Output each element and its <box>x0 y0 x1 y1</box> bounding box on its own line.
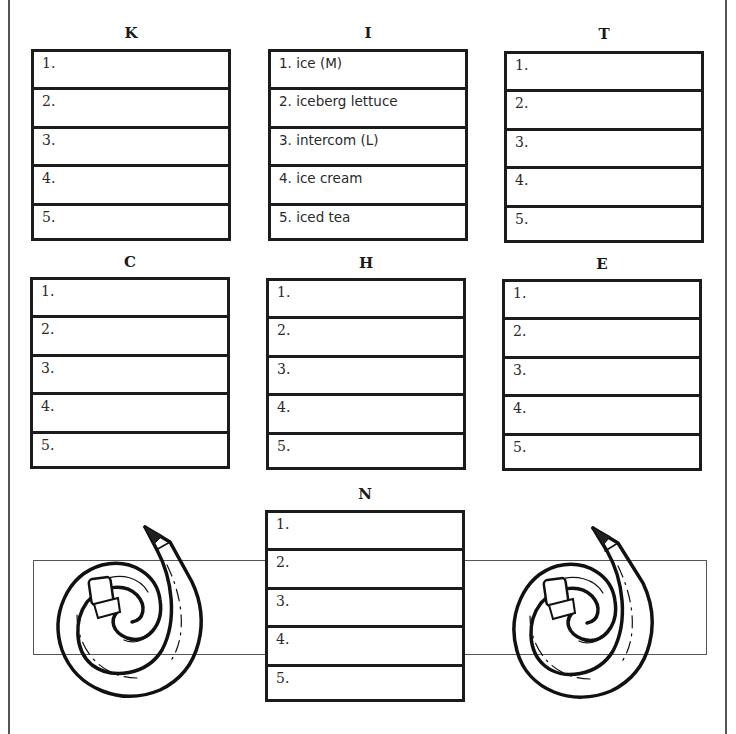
item-label: 5. <box>41 437 54 453</box>
answer-line[interactable]: 4. <box>268 628 462 666</box>
item-label: 5. <box>276 670 289 686</box>
answer-line[interactable]: 5. <box>507 208 701 246</box>
item-label: 3. <box>42 132 55 148</box>
item-label: 3. <box>277 361 290 377</box>
word-box-h: 1. 2. 3. 4. 5. <box>266 278 466 470</box>
word-box-i: 1. ice (M) 2. iceberg lettuce 3. interco… <box>268 49 468 241</box>
item-label: 3. <box>41 360 54 376</box>
box-title-k: K <box>31 24 231 42</box>
answer-line[interactable]: 5. <box>269 435 463 473</box>
answer-line[interactable]: 5. iced tea <box>271 206 465 244</box>
answer-line[interactable]: 4. <box>269 396 463 434</box>
item-label: 1. <box>513 285 526 301</box>
box-title-t: T <box>504 25 704 43</box>
answer-line[interactable]: 2. <box>34 90 228 128</box>
item-label: 2. <box>42 93 55 109</box>
answer-line[interactable]: 5. <box>33 434 227 472</box>
answer-line[interactable]: 2. <box>33 318 227 356</box>
word-box-e: 1. 2. 3. 4. 5. <box>502 279 702 471</box>
item-label: 4. <box>42 170 55 186</box>
word-box-k: 1. 2. 3. 4. 5. <box>31 49 231 241</box>
item-label: 4. ice cream <box>279 170 362 186</box>
item-label: 5. iced tea <box>279 209 350 225</box>
item-label: 5. <box>513 439 526 455</box>
answer-line[interactable]: 2. <box>268 551 462 589</box>
box-title-n: N <box>265 485 465 503</box>
item-label: 1. <box>277 284 290 300</box>
answer-line[interactable]: 3. <box>505 359 699 397</box>
answer-line[interactable]: 4. ice cream <box>271 167 465 205</box>
answer-line[interactable]: 1. <box>34 52 228 90</box>
item-label: 1. <box>276 516 289 532</box>
item-label: 3. <box>513 362 526 378</box>
answer-line[interactable]: 1. <box>33 280 227 318</box>
item-label: 4. <box>515 172 528 188</box>
answer-line[interactable]: 3. <box>33 357 227 395</box>
item-label: 2. iceberg lettuce <box>279 93 398 109</box>
answer-line[interactable]: 4. <box>505 397 699 435</box>
answer-line[interactable]: 5. <box>34 206 228 244</box>
item-label: 1. ice (M) <box>279 55 342 71</box>
answer-line[interactable]: 1. <box>505 282 699 320</box>
item-label: 3. <box>515 134 528 150</box>
item-label: 4. <box>41 398 54 414</box>
word-box-n: 1. 2. 3. 4. 5. <box>265 510 465 702</box>
answer-line[interactable]: 4. <box>507 169 701 207</box>
answer-line[interactable]: 3. <box>34 129 228 167</box>
item-label: 2. <box>513 323 526 339</box>
item-label: 5. <box>277 438 290 454</box>
answer-line[interactable]: 3. intercom (L) <box>271 129 465 167</box>
item-label: 2. <box>515 95 528 111</box>
answer-line[interactable]: 1. <box>269 281 463 319</box>
page-border-right <box>725 0 727 734</box>
item-label: 3. intercom (L) <box>279 132 379 148</box>
answer-line[interactable]: 4. <box>33 395 227 433</box>
item-label: 2. <box>41 321 54 337</box>
box-title-h: H <box>266 254 466 272</box>
box-title-i: I <box>268 24 468 42</box>
item-label: 4. <box>513 400 526 416</box>
box-title-e: E <box>502 255 702 273</box>
curled-pencil-icon <box>515 521 685 711</box>
item-label: 4. <box>277 399 290 415</box>
answer-line[interactable]: 3. <box>268 590 462 628</box>
answer-line[interactable]: 1. <box>507 54 701 92</box>
answer-line[interactable]: 1. ice (M) <box>271 52 465 90</box>
answer-line[interactable]: 1. <box>268 513 462 551</box>
word-box-c: 1. 2. 3. 4. 5. <box>30 277 230 469</box>
answer-line[interactable]: 4. <box>34 167 228 205</box>
answer-line[interactable]: 2. <box>505 320 699 358</box>
answer-line[interactable]: 3. <box>507 131 701 169</box>
item-label: 5. <box>42 209 55 225</box>
item-label: 2. <box>276 554 289 570</box>
box-title-c: C <box>30 253 230 271</box>
item-label: 1. <box>41 283 54 299</box>
curled-pencil-icon <box>52 520 222 710</box>
item-label: 2. <box>277 322 290 338</box>
answer-line[interactable]: 2. iceberg lettuce <box>271 90 465 128</box>
word-box-t: 1. 2. 3. 4. 5. <box>504 51 704 243</box>
item-label: 1. <box>42 55 55 71</box>
item-label: 3. <box>276 593 289 609</box>
item-label: 1. <box>515 57 528 73</box>
answer-line[interactable]: 5. <box>505 436 699 474</box>
answer-line[interactable]: 2. <box>269 319 463 357</box>
answer-line[interactable]: 2. <box>507 92 701 130</box>
item-label: 5. <box>515 211 528 227</box>
answer-line[interactable]: 3. <box>269 358 463 396</box>
answer-line[interactable]: 5. <box>268 667 462 705</box>
item-label: 4. <box>276 631 289 647</box>
page-border-left <box>8 0 10 734</box>
